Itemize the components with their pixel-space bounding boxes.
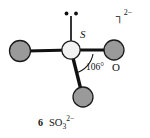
bracket-corner-glyph: ┐ — [116, 10, 124, 22]
oxygen-bottom-atom — [73, 87, 93, 107]
charge-bracket: ┐2− — [116, 9, 132, 22]
lone-pair-dot-left — [65, 12, 69, 16]
lone-pair-dot-right — [74, 12, 78, 16]
figure-canvas: S O 106° ┐2− 6SO32− — [0, 0, 150, 138]
figure-caption: 6SO32− — [38, 115, 74, 130]
caption-number: 6 — [38, 117, 43, 128]
sulfur-center-atom — [62, 41, 80, 59]
oxygen-right-atom — [104, 40, 124, 60]
bond-angle-label: 106° — [86, 63, 104, 73]
oxygen-left-atom — [10, 41, 31, 62]
sulfur-atom-label: S — [80, 29, 86, 40]
caption-formula-charge: 2− — [66, 114, 74, 123]
oxygen-atom-label: O — [112, 62, 120, 73]
charge-superscript: 2− — [124, 8, 133, 17]
